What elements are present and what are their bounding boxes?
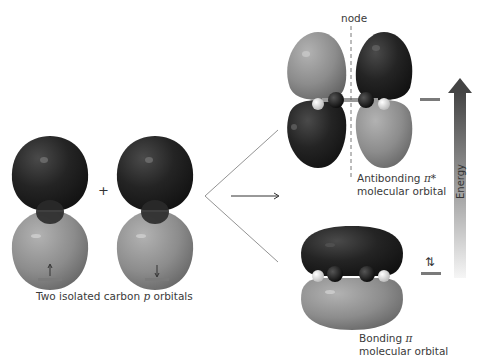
isolated-p-symbol: p — [143, 290, 150, 302]
electron-pair-arrows: ⇅ — [425, 255, 435, 269]
energy-level-bonding — [421, 272, 441, 275]
antibonding-label: Antibonding π* molecular orbital — [357, 172, 446, 198]
isolated-orbitals-label: Two isolated carbon p orbitals — [36, 290, 193, 303]
antibonding-subtitle: molecular orbital — [357, 185, 446, 198]
energy-level-right — [145, 278, 169, 281]
plus-sign: + — [98, 183, 109, 198]
energy-level-left — [38, 278, 62, 281]
antibonding-title: Antibonding — [357, 172, 421, 184]
combination-arrow — [231, 193, 279, 199]
p-orbital-right — [117, 136, 193, 290]
energy-label: Energy — [455, 164, 466, 200]
bonding-subtitle: molecular orbital — [359, 345, 448, 358]
antibonding-orbital — [287, 32, 412, 168]
bonding-label: Bonding π molecular orbital — [359, 332, 448, 358]
antibonding-symbol: π* — [424, 172, 436, 184]
bonding-orbital — [301, 226, 403, 330]
bonding-title: Bonding — [359, 332, 402, 344]
node-label: node — [341, 12, 367, 25]
isolated-text: Two isolated carbon — [36, 290, 140, 302]
bonding-symbol: π — [406, 332, 413, 344]
energy-level-antibonding — [420, 98, 440, 101]
isolated-tail-text: orbitals — [153, 290, 192, 302]
